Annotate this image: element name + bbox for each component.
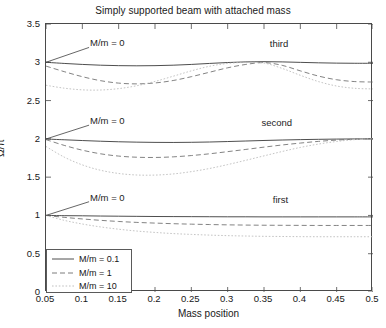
- series-line: [46, 62, 373, 90]
- series-line: [46, 215, 373, 216]
- annotation-label: M/m = 0: [90, 115, 125, 126]
- annotation-leader-line: [46, 125, 89, 139]
- legend-item: M/m = 10: [47, 279, 133, 293]
- legend-label: M/m = 10: [79, 281, 117, 291]
- x-axis-label: Mass position: [45, 308, 372, 319]
- x-tick-label: 0.05: [36, 293, 55, 304]
- x-tick-label: 0.4: [293, 293, 306, 304]
- y-tick-label: 3: [6, 56, 40, 67]
- legend-label: M/m = 1: [79, 268, 112, 278]
- legend-line-swatch: [51, 280, 75, 292]
- annotation-label: M/m = 0: [90, 37, 125, 48]
- mode-label: second: [261, 117, 292, 128]
- mode-label: first: [273, 194, 288, 205]
- series-line: [46, 139, 373, 175]
- legend-item: M/m = 0.1: [47, 252, 133, 266]
- y-tick-label: 1: [6, 209, 40, 220]
- x-tick-label: 0.2: [147, 293, 160, 304]
- figure: Simply supported beam with attached mass…: [0, 0, 386, 328]
- annotation-leader-line: [46, 47, 89, 62]
- x-tick-label: 0.3: [220, 293, 233, 304]
- y-tick-label: 0.5: [6, 247, 40, 258]
- legend: M/m = 0.1M/m = 1M/m = 10: [46, 249, 132, 293]
- y-tick-label: 2: [6, 132, 40, 143]
- mode-label: third: [270, 38, 288, 49]
- y-tick-label: 3.5: [6, 18, 40, 29]
- annotation-leader-line: [46, 202, 89, 216]
- chart-title: Simply supported beam with attached mass: [0, 5, 386, 16]
- x-tick-label: 0.35: [254, 293, 273, 304]
- x-tick-label: 0.25: [181, 293, 200, 304]
- legend-label: M/m = 0.1: [79, 254, 119, 264]
- x-tick-label: 0.45: [326, 293, 345, 304]
- x-tick-label: 0.1: [75, 293, 88, 304]
- y-tick-label: 1.5: [6, 171, 40, 182]
- annotation-label: M/m = 0: [90, 192, 125, 203]
- series-line: [46, 62, 373, 66]
- x-tick-label: 0.5: [365, 293, 378, 304]
- x-tick-label: 0.15: [108, 293, 127, 304]
- legend-item: M/m = 1: [47, 266, 133, 280]
- legend-line-swatch: [51, 267, 75, 279]
- series-line: [46, 63, 373, 84]
- y-tick-label: 2.5: [6, 94, 40, 105]
- legend-line-swatch: [51, 253, 75, 265]
- series-line: [46, 215, 373, 236]
